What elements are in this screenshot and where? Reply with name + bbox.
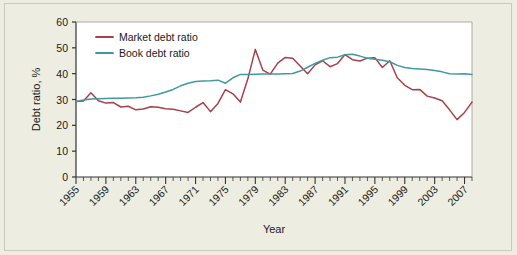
debt-ratio-line-chart: 0102030405060 19551959196319671971197519… (0, 0, 517, 255)
svg-text:Year: Year (263, 223, 286, 235)
svg-text:1975: 1975 (206, 183, 231, 208)
svg-text:1955: 1955 (56, 183, 81, 208)
svg-text:Debt ratio, %: Debt ratio, % (30, 67, 42, 131)
svg-text:2007: 2007 (445, 183, 470, 208)
svg-text:50: 50 (56, 42, 68, 54)
svg-text:30: 30 (56, 94, 68, 106)
svg-text:1999: 1999 (385, 183, 410, 208)
svg-text:1971: 1971 (176, 183, 201, 208)
x-axis-tick-labels: 1955195919631967197119751979198319871991… (56, 183, 470, 208)
svg-text:1959: 1959 (86, 183, 111, 208)
svg-text:0: 0 (62, 171, 68, 183)
svg-text:Book debt ratio: Book debt ratio (119, 47, 190, 59)
svg-text:60: 60 (56, 16, 68, 28)
svg-text:20: 20 (56, 119, 68, 131)
svg-text:2003: 2003 (415, 183, 440, 208)
svg-text:10: 10 (56, 145, 68, 157)
svg-text:1967: 1967 (146, 183, 171, 208)
svg-text:1995: 1995 (355, 183, 380, 208)
svg-text:1963: 1963 (116, 183, 141, 208)
svg-text:1987: 1987 (296, 183, 321, 208)
plot-background (76, 22, 472, 177)
chart-figure: 0102030405060 19551959196319671971197519… (0, 0, 517, 255)
svg-text:1983: 1983 (266, 183, 291, 208)
svg-text:40: 40 (56, 68, 68, 80)
svg-text:Market debt ratio: Market debt ratio (119, 31, 198, 43)
y-axis-tick-labels: 0102030405060 (56, 16, 68, 183)
svg-text:1991: 1991 (325, 183, 350, 208)
svg-text:1979: 1979 (236, 183, 261, 208)
